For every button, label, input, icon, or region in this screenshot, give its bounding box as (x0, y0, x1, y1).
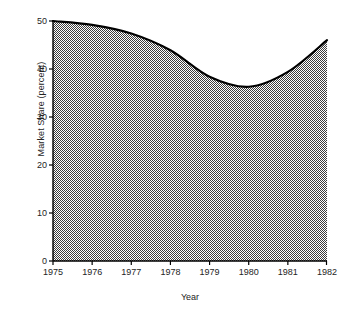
plot-canvas (0, 0, 350, 319)
market-share-area-chart: Market Share (percent) Year 01020304050 … (0, 0, 350, 319)
area-fill (53, 21, 327, 261)
